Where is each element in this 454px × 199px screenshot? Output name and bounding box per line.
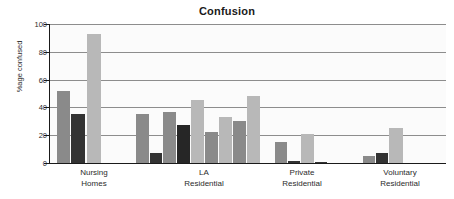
- bar: [376, 153, 388, 163]
- bar-chart: Confusion %age confused 020406080100 Nur…: [0, 0, 454, 199]
- x-axis-label-group-2: PrivateResidential: [257, 167, 347, 189]
- y-tick-label-80: 80: [5, 47, 47, 56]
- bar: [136, 114, 149, 163]
- bar: [219, 117, 232, 163]
- x-axis-label-group-3: VoluntaryResidential: [355, 167, 445, 189]
- bar: [71, 114, 85, 163]
- bars-container: [50, 24, 446, 163]
- bar: [363, 156, 375, 163]
- bar: [177, 125, 190, 163]
- bar: [191, 100, 204, 163]
- bar: [205, 132, 218, 163]
- y-axis-ticks: 020406080100: [0, 24, 47, 163]
- x-label-line1: LA: [199, 168, 209, 177]
- bar: [315, 162, 327, 163]
- bar: [301, 134, 314, 163]
- bar: [87, 34, 101, 163]
- bar: [247, 96, 260, 163]
- y-tick-label-0: 0: [5, 159, 47, 168]
- x-label-line1: Voluntary: [383, 168, 416, 177]
- y-tick-label-60: 60: [5, 75, 47, 84]
- chart-title: Confusion: [0, 5, 454, 17]
- x-label-line1: Nursing: [80, 168, 108, 177]
- bar: [233, 121, 246, 163]
- x-axis-line: [44, 163, 446, 164]
- x-label-line2: Residential: [257, 178, 347, 189]
- y-tick-label-40: 40: [5, 103, 47, 112]
- x-axis-label-group-1: LAResidential: [159, 167, 249, 189]
- x-label-line2: Homes: [49, 178, 139, 189]
- bar: [275, 142, 287, 163]
- x-label-line2: Residential: [355, 178, 445, 189]
- x-label-line2: Residential: [159, 178, 249, 189]
- bar: [163, 112, 176, 163]
- y-tick-label-100: 100: [5, 20, 47, 29]
- bar: [389, 128, 403, 163]
- bar: [288, 161, 300, 163]
- bar: [57, 91, 70, 163]
- bar: [150, 153, 162, 163]
- y-tick-label-20: 20: [5, 131, 47, 140]
- x-label-line1: Private: [290, 168, 315, 177]
- x-axis-label-group-0: NursingHomes: [49, 167, 139, 189]
